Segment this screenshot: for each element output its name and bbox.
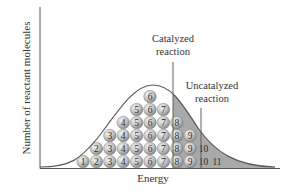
molecule-ball: 6 — [144, 116, 157, 129]
molecule-ball: 3 — [104, 155, 117, 168]
molecule-ball: 7 — [157, 142, 170, 155]
energy-level-number: 9 — [188, 144, 193, 154]
molecule-ball: 7 — [157, 155, 170, 168]
catalyzed-label-line2: reaction — [156, 46, 191, 57]
energy-level-number: 7 — [161, 118, 166, 128]
molecule-ball: 9 — [184, 129, 197, 142]
energy-level-number: 4 — [121, 144, 126, 154]
shaded-area — [40, 85, 275, 168]
energy-level-number: 8 — [174, 144, 179, 154]
molecule-ball: 4 — [117, 129, 130, 142]
energy-level-number: 6 — [148, 118, 153, 128]
y-axis-label: Number of reactant molecules — [20, 22, 32, 155]
molecule-ball: 7 — [157, 116, 170, 129]
energy-level-number: 8 — [174, 131, 179, 141]
molecule-ball: 8 — [171, 129, 184, 142]
energy-level-number: 4 — [121, 118, 126, 128]
molecule-ball: 11 — [212, 157, 221, 167]
energy-level-number: 9 — [188, 131, 193, 141]
uncatalyzed-label-line1: Uncatalyzed — [186, 80, 239, 91]
molecule-ball: 4 — [117, 116, 130, 129]
molecule-ball: 10 — [199, 144, 209, 154]
energy-level-number: 6 — [148, 105, 153, 115]
energy-distribution-diagram: 122333444455555666666777778888999101011 … — [0, 0, 295, 193]
molecule-ball: 6 — [144, 103, 157, 116]
molecule-ball: 8 — [171, 116, 184, 129]
molecule-ball: 5 — [130, 155, 143, 168]
energy-level-number: 7 — [161, 157, 166, 167]
molecule-ball: 6 — [144, 142, 157, 155]
energy-level-number: 1 — [81, 157, 86, 167]
molecule-ball: 9 — [184, 142, 197, 155]
energy-level-number: 6 — [148, 144, 153, 154]
molecule-ball: 3 — [104, 142, 117, 155]
molecule-ball: 8 — [171, 155, 184, 168]
energy-level-number: 6 — [148, 131, 153, 141]
energy-level-number: 6 — [148, 157, 153, 167]
energy-level-number: 5 — [134, 105, 139, 115]
energy-level-number: 3 — [107, 131, 112, 141]
molecule-ball: 5 — [130, 129, 143, 142]
energy-level-number: 8 — [174, 118, 179, 128]
molecule-ball: 2 — [90, 155, 103, 168]
molecule-ball: 9 — [184, 155, 197, 168]
energy-level-number: 5 — [134, 144, 139, 154]
energy-level-number: 4 — [121, 157, 126, 167]
molecule-ball: 10 — [199, 157, 209, 167]
energy-level-number: 5 — [134, 131, 139, 141]
molecule-ball: 5 — [130, 142, 143, 155]
energy-level-number: 8 — [174, 157, 179, 167]
energy-level-number: 7 — [161, 105, 166, 115]
molecule-ball: 6 — [144, 129, 157, 142]
molecule-ball: 4 — [117, 155, 130, 168]
uncatalyzed-label-line2: reaction — [195, 93, 230, 104]
molecule-ball: 8 — [171, 142, 184, 155]
molecule-ball: 5 — [130, 116, 143, 129]
catalyzed-label-line1: Catalyzed — [152, 33, 195, 44]
energy-level-number: 10 — [199, 144, 209, 154]
energy-level-number: 2 — [94, 157, 99, 167]
energy-level-number: 9 — [188, 157, 193, 167]
molecule-ball: 6 — [144, 90, 157, 103]
molecule-ball: 7 — [157, 103, 170, 116]
molecule-ball: 6 — [144, 155, 157, 168]
energy-level-number: 3 — [107, 144, 112, 154]
x-axis-label: Energy — [137, 172, 169, 184]
energy-level-number: 7 — [161, 131, 166, 141]
energy-level-number: 11 — [212, 157, 221, 167]
energy-level-number: 7 — [161, 144, 166, 154]
energy-level-number: 6 — [148, 92, 153, 102]
molecule-ball: 4 — [117, 142, 130, 155]
energy-level-number: 5 — [134, 157, 139, 167]
molecule-ball: 7 — [157, 129, 170, 142]
energy-level-number: 3 — [107, 157, 112, 167]
molecule-ball: 3 — [104, 129, 117, 142]
molecule-ball: 5 — [130, 103, 143, 116]
energy-level-number: 2 — [94, 144, 99, 154]
energy-level-number: 4 — [121, 131, 126, 141]
distribution-curve — [40, 85, 275, 167]
energy-level-number: 5 — [134, 118, 139, 128]
energy-level-number: 10 — [199, 157, 209, 167]
